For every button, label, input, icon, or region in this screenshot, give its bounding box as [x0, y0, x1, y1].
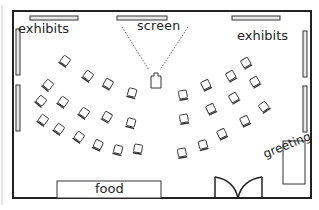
exhibit-panel-right-1: [303, 31, 307, 77]
exhibits-left-label: exhibits: [18, 22, 69, 35]
projection-line-right: [160, 27, 188, 70]
seating-left: [35, 55, 144, 156]
projection-line-left: [122, 27, 149, 70]
exhibit-panel-left-2: [16, 85, 20, 131]
exhibit-panel-top-right: [232, 16, 280, 20]
seating-right: [177, 57, 272, 158]
projector-icon: [151, 73, 161, 88]
food-label: food: [95, 182, 124, 195]
floor-plan: exhibits exhibits screen food greeting: [0, 0, 319, 210]
double-door: [215, 177, 262, 198]
exhibit-panel-top-left: [30, 16, 78, 20]
screen-label: screen: [137, 20, 180, 33]
exhibits-right-label: exhibits: [237, 29, 288, 42]
exhibit-panel-right-2: [303, 86, 307, 132]
